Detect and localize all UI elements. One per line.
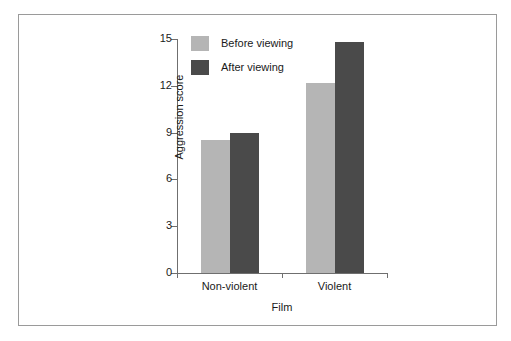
bar-non-violent-before-viewing: [201, 140, 230, 273]
legend-label-before-viewing: Before viewing: [221, 37, 293, 49]
x-category-label-violent: Violent: [285, 280, 385, 292]
y-axis-title: Aggression score: [173, 57, 185, 177]
x-tick-mark: [282, 273, 283, 278]
legend-swatch-before-viewing: [191, 36, 209, 51]
legend-item-after-viewing: After viewing: [191, 55, 293, 79]
x-axis-title: Film: [177, 301, 387, 313]
chart-legend: Before viewing After viewing: [191, 31, 293, 79]
figure-frame: 03691215 Non-violentViolent Aggression s…: [18, 14, 497, 326]
bar-violent-after-viewing: [335, 42, 364, 273]
y-tick-label: 15: [160, 32, 177, 45]
x-category-label-non-violent: Non-violent: [180, 280, 280, 292]
legend-label-after-viewing: After viewing: [221, 61, 284, 73]
y-tick-label: 0: [166, 266, 177, 279]
legend-swatch-after-viewing: [191, 60, 209, 75]
bar-chart-plot-area: 03691215 Non-violentViolent Aggression s…: [19, 15, 498, 327]
bar-non-violent-after-viewing: [230, 133, 259, 273]
x-tick-mark: [177, 273, 178, 278]
y-tick-label: 3: [166, 219, 177, 232]
x-tick-mark: [387, 273, 388, 278]
bar-violent-before-viewing: [306, 83, 335, 273]
legend-item-before-viewing: Before viewing: [191, 31, 293, 55]
